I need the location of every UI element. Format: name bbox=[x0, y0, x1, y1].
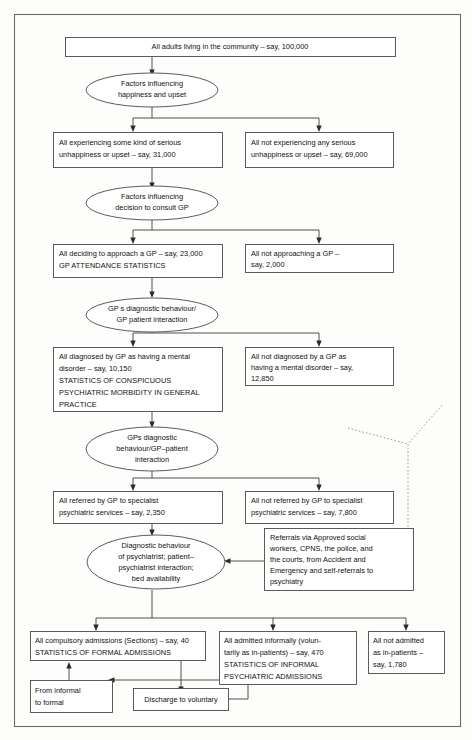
node-psychiatrist-behaviour-line-2: psychiatrist interaction; bbox=[118, 563, 193, 572]
node-not-diagnosed-by-gp-line-0: All not diagnosed by a GP as bbox=[251, 352, 346, 361]
node-not-diagnosed-by-gp-line-1: having a mental disorder – say, bbox=[251, 363, 353, 372]
node-informal-to-formal-line-1: to formal bbox=[35, 698, 64, 707]
node-factors-consult-gp[interactable]: Factors influencing decision to consult … bbox=[86, 186, 218, 220]
node-diagnosed-by-gp-line-3: PSYCHIATRIC MORBIDITY IN GENERAL bbox=[59, 388, 200, 397]
node-psychiatrist-behaviour-line-3: bed availability bbox=[132, 574, 181, 583]
node-gp-diagnostic-behaviour[interactable]: GP s diagnostic behaviour/ GP patient in… bbox=[86, 298, 218, 332]
node-experiencing-unhappiness[interactable]: All experiencing some kind of serious un… bbox=[54, 133, 223, 168]
node-not-referred-specialist[interactable]: All not referred by GP to specialist psy… bbox=[246, 492, 394, 524]
node-diagnosed-by-gp-line-1: disorder – say, 10,150 bbox=[59, 364, 132, 373]
node-informal-to-formal-line-0: From informal bbox=[35, 686, 81, 695]
node-not-admitted[interactable]: All not admitted as in-patients – say, 1… bbox=[369, 632, 445, 674]
node-approach-gp[interactable]: All deciding to approach a GP – say, 23,… bbox=[54, 245, 223, 278]
node-referred-specialist[interactable]: All referred by GP to specialist psychia… bbox=[54, 492, 223, 524]
node-not-approach-gp-line-0: All not approaching a GP – bbox=[251, 249, 340, 258]
node-not-experiencing-unhappiness[interactable]: All not experiencing any serious unhappi… bbox=[246, 133, 394, 168]
node-admitted-informally[interactable]: All admitted informally (volun- tarily a… bbox=[220, 632, 357, 685]
node-all-adults[interactable]: All adults living in the community – say… bbox=[66, 38, 396, 57]
node-not-admitted-line-1: as in-patients – bbox=[373, 648, 424, 657]
node-not-diagnosed-by-gp[interactable]: All not diagnosed by a GP as having a me… bbox=[246, 348, 394, 386]
node-gps-diagnostic-behaviour-2-line-0: GPs diagnostic bbox=[127, 433, 177, 442]
node-referred-specialist-line-1: psychiatric services – say, 2,350 bbox=[59, 508, 165, 517]
node-compulsory-admissions-line-0: All compulsory admissions (Sections) – s… bbox=[35, 636, 189, 645]
node-not-experiencing-unhappiness-line-0: All not experiencing any serious bbox=[251, 138, 356, 147]
flowchart-svg: All adults living in the community – say… bbox=[0, 0, 472, 740]
node-admitted-informally-line-2: STATISTICS OF INFORMAL bbox=[224, 660, 319, 669]
node-not-experiencing-unhappiness-line-1: unhappiness or upset – say, 69,000 bbox=[251, 150, 368, 159]
flowchart-canvas: All adults living in the community – say… bbox=[0, 0, 472, 740]
node-not-admitted-line-2: say, 1,780 bbox=[373, 660, 407, 669]
node-psychiatrist-behaviour[interactable]: Diagnostic behaviour of psychiatrist; pa… bbox=[87, 535, 225, 589]
node-diagnosed-by-gp[interactable]: All diagnosed by GP as having a mental d… bbox=[54, 348, 223, 412]
node-admitted-informally-line-3: PSYCHIATRIC ADMISSIONS bbox=[224, 672, 322, 681]
node-diagnosed-by-gp-line-2: STATISTICS OF CONSPICUOUS bbox=[59, 376, 171, 385]
node-gp-diagnostic-behaviour-line-0: GP s diagnostic behaviour/ bbox=[108, 304, 197, 313]
node-psychiatrist-behaviour-line-0: Diagnostic behaviour bbox=[121, 541, 191, 550]
node-not-diagnosed-by-gp-line-2: 12,850 bbox=[251, 374, 274, 383]
node-gps-diagnostic-behaviour-2-line-1: behaviour/GP–patient bbox=[116, 444, 188, 453]
node-gps-diagnostic-behaviour-2[interactable]: GPs diagnostic behaviour/GP–patient inte… bbox=[86, 427, 218, 471]
node-not-admitted-line-0: All not admitted bbox=[373, 636, 424, 645]
node-compulsory-admissions-line-1: STATISTICS OF FORMAL ADMISSIONS bbox=[35, 648, 171, 657]
node-factors-happiness-line-1: happiness and upset bbox=[118, 90, 186, 99]
node-admitted-informally-line-0: All admitted informally (volun- bbox=[224, 636, 321, 645]
node-admitted-informally-line-1: tarily as in-patients) – say, 470 bbox=[224, 648, 324, 657]
node-compulsory-admissions[interactable]: All compulsory admissions (Sections) – s… bbox=[31, 632, 206, 661]
node-experiencing-unhappiness-line-0: All experiencing some kind of serious bbox=[59, 138, 181, 147]
node-referrals-via-line-0: Referrals via Approved social bbox=[270, 533, 366, 542]
node-factors-consult-gp-line-0: Factors influencing bbox=[121, 192, 183, 201]
node-approach-gp-line-0: All deciding to approach a GP – say, 23,… bbox=[59, 249, 203, 258]
node-not-referred-specialist-line-0: All not referred by GP to specialist bbox=[251, 496, 363, 505]
node-psychiatrist-behaviour-line-1: of psychiatrist; patient– bbox=[118, 552, 194, 561]
node-referrals-via-line-2: the courts, from Accident and bbox=[270, 555, 366, 564]
node-factors-happiness[interactable]: Factors influencing happiness and upset bbox=[86, 73, 218, 107]
node-approach-gp-line-1: GP ATTENDANCE STATISTICS bbox=[59, 261, 166, 270]
node-discharge-to-voluntary-line-0: Discharge to voluntary bbox=[144, 695, 218, 704]
node-referrals-via-line-1: workers, CPNS, the police, and bbox=[269, 544, 373, 553]
node-diagnosed-by-gp-line-0: All diagnosed by GP as having a mental bbox=[59, 352, 190, 361]
node-not-approach-gp[interactable]: All not approaching a GP – say, 2,000 bbox=[246, 245, 394, 273]
node-discharge-to-voluntary[interactable]: Discharge to voluntary bbox=[134, 689, 229, 711]
node-gp-diagnostic-behaviour-line-1: GP patient interaction bbox=[117, 315, 188, 324]
node-factors-consult-gp-line-1: decision to consult GP bbox=[115, 203, 189, 212]
node-gps-diagnostic-behaviour-2-line-2: interaction bbox=[135, 455, 169, 464]
node-referrals-via-line-4: psychiatry bbox=[270, 577, 304, 586]
node-diagnosed-by-gp-line-4: PRACTICE bbox=[59, 400, 97, 409]
node-experiencing-unhappiness-line-1: unhappiness or upset – say, 31,000 bbox=[59, 150, 176, 159]
node-referred-specialist-line-0: All referred by GP to specialist bbox=[59, 496, 158, 505]
node-referrals-via-line-3: Emergency and self-referrals to bbox=[270, 566, 373, 575]
node-factors-happiness-line-0: Factors influencing bbox=[121, 79, 183, 88]
node-not-referred-specialist-line-1: psychiatric services – say, 7,800 bbox=[251, 508, 357, 517]
node-referrals-via[interactable]: Referrals via Approved social workers, C… bbox=[265, 529, 414, 591]
node-not-approach-gp-line-1: say, 2,000 bbox=[251, 260, 285, 269]
node-all-adults-line-0: All adults living in the community – say… bbox=[152, 42, 309, 51]
node-informal-to-formal[interactable]: From informal to formal bbox=[31, 681, 113, 713]
